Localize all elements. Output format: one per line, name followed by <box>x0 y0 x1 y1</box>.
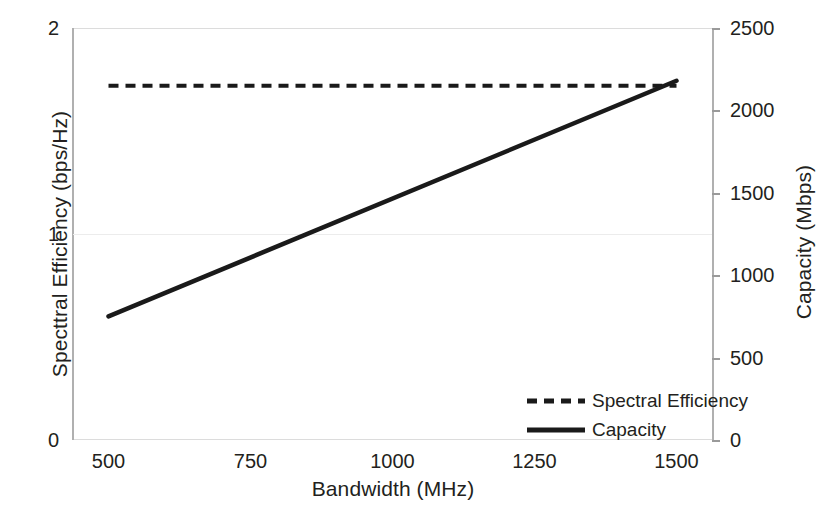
legend-label-spectral-efficiency: Spectral Efficiency <box>587 390 748 412</box>
data-series-layer <box>73 28 712 440</box>
y-axis-right-tick-label: 1500 <box>730 181 775 204</box>
y-axis-right-tick-mark <box>712 275 720 277</box>
y-axis-left-tick-label: 0 <box>48 429 59 452</box>
legend-swatch-solid-icon <box>525 423 587 437</box>
plot-area: 0120500100015002000250050075010001250150… <box>73 28 712 440</box>
chart-legend: Spectral Efficiency Capacity <box>525 386 715 444</box>
y-axis-right-title: Capacity (Mbps) <box>792 32 816 452</box>
y-axis-right-tick-label: 1000 <box>730 264 775 287</box>
y-axis-right-tick-mark <box>712 358 720 360</box>
x-axis-tick-label: 1250 <box>512 450 557 473</box>
x-axis-tick-label: 1000 <box>370 450 415 473</box>
legend-item-spectral-efficiency: Spectral Efficiency <box>525 386 715 415</box>
x-axis-tick-label: 500 <box>92 450 125 473</box>
legend-label-capacity: Capacity <box>587 419 666 441</box>
legend-swatch-dashed-icon <box>525 394 587 408</box>
legend-item-capacity: Capacity <box>525 415 715 444</box>
chart-figure: Specttral Efficiency (bps/Hz) Capacity (… <box>0 0 833 516</box>
y-axis-right-tick-mark <box>712 28 720 30</box>
y-axis-right-tick-mark <box>712 193 720 195</box>
y-axis-right-tick-label: 500 <box>730 346 763 369</box>
y-axis-left-tick-label: 2 <box>48 17 59 40</box>
y-axis-right-tick-label: 2500 <box>730 17 775 40</box>
y-axis-right-tick-mark <box>712 110 720 112</box>
y-axis-right-line <box>712 28 714 440</box>
y-axis-right-tick-label: 2000 <box>730 99 775 122</box>
x-axis-tick-label: 750 <box>234 450 267 473</box>
series-capacity-line <box>109 81 677 317</box>
x-axis-tick-label: 1500 <box>654 450 699 473</box>
x-axis-title: Bandwidth (MHz) <box>73 477 713 501</box>
y-axis-left-tick-label: 1 <box>48 223 59 246</box>
y-axis-right-tick-label: 0 <box>730 429 741 452</box>
